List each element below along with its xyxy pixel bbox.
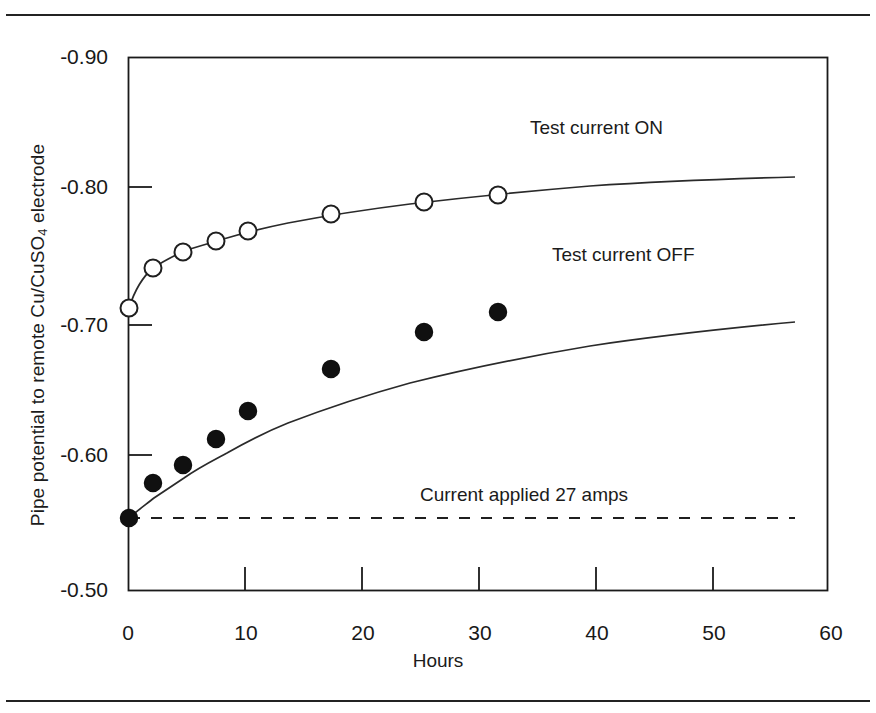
series-markers-test-current-on xyxy=(121,187,507,317)
data-point-off-7 xyxy=(490,304,507,321)
y-tick-label-1: -0.80 xyxy=(34,175,108,199)
x-tick-label-4: 40 xyxy=(567,621,627,645)
x-tick-label-3: 30 xyxy=(450,621,510,645)
y-axis-title-main: Pipe potential to remote Cu/CuSO xyxy=(27,236,48,526)
x-tick-label-2: 20 xyxy=(333,621,393,645)
y-tick-label-2: -0.70 xyxy=(34,313,108,337)
data-point-off-2 xyxy=(175,457,192,474)
annotation-test-current-off: Test current OFF xyxy=(552,244,695,266)
y-axis-title-subscript: 4 xyxy=(35,228,50,235)
plot-canvas xyxy=(0,24,876,694)
data-point-off-5 xyxy=(323,361,340,378)
data-point-on-2 xyxy=(175,244,192,261)
chart-figure: Pipe potential to remote Cu/CuSO4 electr… xyxy=(0,24,876,694)
data-point-on-7 xyxy=(490,187,507,204)
data-point-on-4 xyxy=(240,223,257,240)
annotation-current-applied: Current applied 27 amps xyxy=(420,484,628,506)
data-point-on-6 xyxy=(416,194,433,211)
data-point-on-0 xyxy=(121,300,138,317)
x-tick-label-6: 60 xyxy=(801,621,861,645)
series-line-test-current-on xyxy=(129,177,795,308)
data-point-off-1 xyxy=(145,475,162,492)
y-tick-label-4: -0.50 xyxy=(34,578,108,602)
x-axis-ticks xyxy=(245,567,713,590)
data-point-on-5 xyxy=(323,206,340,223)
bottom-divider-rule xyxy=(6,700,870,702)
x-axis-title: Hours xyxy=(0,650,876,672)
x-tick-label-5: 50 xyxy=(684,621,744,645)
plot-frame xyxy=(129,58,828,591)
data-point-on-3 xyxy=(208,233,225,250)
figure-page: Pipe potential to remote Cu/CuSO4 electr… xyxy=(0,0,876,713)
data-point-off-6 xyxy=(416,324,433,341)
top-divider-rule xyxy=(6,14,870,16)
y-axis-ticks xyxy=(128,187,152,455)
y-tick-label-3: -0.60 xyxy=(34,443,108,467)
data-point-off-3 xyxy=(208,431,225,448)
annotation-test-current-on: Test current ON xyxy=(530,117,663,139)
x-tick-label-1: 10 xyxy=(216,621,276,645)
data-point-on-1 xyxy=(145,260,162,277)
data-point-off-0 xyxy=(121,510,138,527)
y-tick-label-0: -0.90 xyxy=(34,45,108,69)
data-point-off-4 xyxy=(240,403,257,420)
x-tick-label-0: 0 xyxy=(98,621,158,645)
